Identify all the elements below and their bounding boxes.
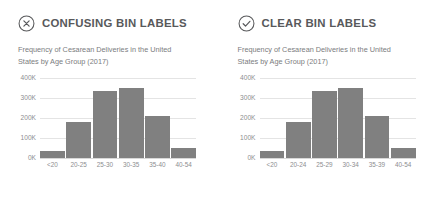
bar [145, 116, 170, 158]
bar [40, 151, 65, 158]
bar-slot [40, 78, 65, 158]
plot-area: 400K 300K 200K 100K 0K [40, 78, 196, 158]
bar-slot [391, 78, 416, 158]
xtick-label: 20-25 [66, 162, 91, 168]
bar [286, 122, 311, 158]
ytick-label: 300K [240, 95, 255, 102]
x-axis-labels: <20 20-25 25-30 30-35 35-40 40-54 [40, 162, 196, 168]
x-axis-line [40, 158, 196, 159]
ytick-label: 200K [21, 115, 36, 122]
panel-confusing-bin-labels: CONFUSING BIN LABELS Frequency of Cesare… [0, 0, 214, 203]
ytick-label: 400K [240, 75, 255, 82]
panel-clear-bin-labels: CLEAR BIN LABELS Frequency of Cesarean D… [214, 0, 427, 203]
ytick-label: 200K [240, 115, 255, 122]
bar [260, 151, 285, 158]
xtick-label: 30-35 [119, 162, 144, 168]
panel-header: CLEAR BIN LABELS [238, 13, 418, 33]
xtick-label: 25-30 [93, 162, 118, 168]
bar-series [40, 78, 196, 158]
bar [365, 116, 390, 158]
xtick-label: <20 [40, 162, 65, 168]
bar-slot [171, 78, 196, 158]
bar [391, 148, 416, 158]
bar-slot [286, 78, 311, 158]
bar-slot [145, 78, 170, 158]
bar [119, 88, 144, 158]
bar [338, 88, 363, 158]
histogram-chart-clear: 400K 300K 200K 100K 0K [238, 74, 416, 176]
bar-slot [312, 78, 337, 158]
circle-x-icon [18, 15, 35, 32]
xtick-label: 35-40 [145, 162, 170, 168]
circle-check-icon [238, 15, 255, 32]
ytick-label: 100K [21, 135, 36, 142]
bar [66, 122, 91, 158]
xtick-label: 40-54 [171, 162, 196, 168]
bar-series [260, 78, 416, 158]
ytick-label: 0K [28, 155, 36, 162]
bar [312, 91, 337, 158]
comparison-board: CONFUSING BIN LABELS Frequency of Cesare… [0, 0, 427, 203]
x-axis-line [260, 158, 416, 159]
panel-header: CONFUSING BIN LABELS [18, 13, 204, 33]
chart-subtitle: Frequency of Cesarean Deliveries in the … [18, 44, 183, 67]
plot-area: 400K 300K 200K 100K 0K [260, 78, 416, 158]
bar [171, 148, 196, 158]
ytick-label: 0K [247, 155, 255, 162]
xtick-label: 30-34 [338, 162, 363, 168]
ytick-label: 400K [21, 75, 36, 82]
bar [93, 91, 118, 158]
panel-title: CLEAR BIN LABELS [262, 17, 377, 29]
ytick-label: 300K [21, 95, 36, 102]
bar-slot [119, 78, 144, 158]
xtick-label: 25-29 [312, 162, 337, 168]
bar-slot [365, 78, 390, 158]
histogram-chart-confusing: 400K 300K 200K 100K 0K [18, 74, 196, 176]
xtick-label: 35-39 [365, 162, 390, 168]
chart-subtitle: Frequency of Cesarean Deliveries in the … [238, 44, 403, 67]
bar-slot [93, 78, 118, 158]
xtick-label: 20-24 [286, 162, 311, 168]
bar-slot [66, 78, 91, 158]
bar-slot [260, 78, 285, 158]
bar-slot [338, 78, 363, 158]
xtick-label: <20 [260, 162, 285, 168]
x-axis-labels: <20 20-24 25-29 30-34 35-39 40-54 [260, 162, 416, 168]
xtick-label: 40-54 [391, 162, 416, 168]
panel-title: CONFUSING BIN LABELS [42, 17, 187, 29]
ytick-label: 100K [240, 135, 255, 142]
